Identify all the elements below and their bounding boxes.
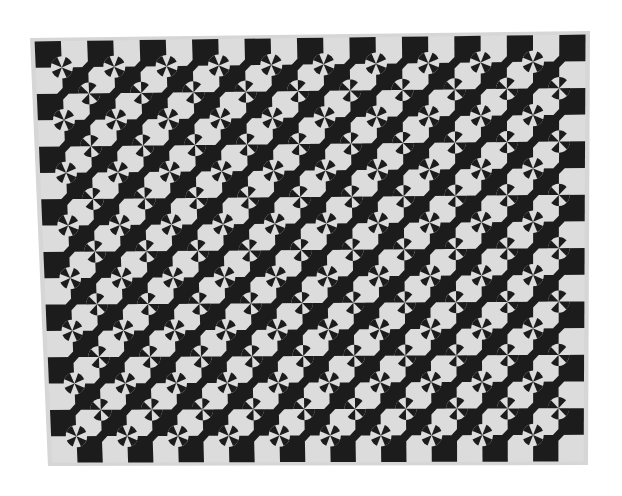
- quilt-photo: [0, 0, 622, 496]
- quilt-pattern: [35, 35, 586, 463]
